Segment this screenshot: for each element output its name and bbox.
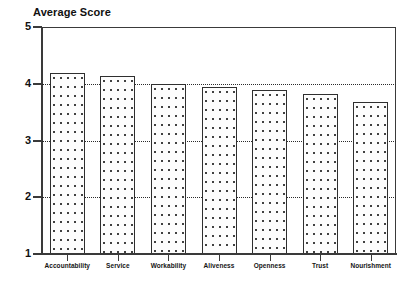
gridline-4 — [42, 84, 396, 85]
x-axis-tick-nourishment — [371, 254, 372, 261]
x-axis-tick-trust — [320, 254, 321, 261]
x-axis-tick-accountability — [67, 254, 68, 261]
x-axis-tick-openness — [270, 254, 271, 261]
y-axis-tick-3 — [33, 140, 42, 142]
x-axis-label-service: Service — [106, 262, 129, 269]
x-axis-label-workability: Workability — [151, 262, 186, 269]
y-axis-label-4: 4 — [11, 78, 31, 89]
y-axis-label-1: 1 — [11, 248, 31, 259]
bar-openness — [252, 90, 287, 254]
y-axis-label-2: 2 — [11, 191, 31, 202]
y-axis-tick-5 — [33, 26, 42, 28]
chart-title: Average Score — [33, 6, 111, 18]
bar-aliveness — [202, 87, 237, 254]
y-axis-label-3: 3 — [11, 135, 31, 146]
y-axis-label-5: 5 — [11, 21, 31, 32]
y-axis-tick-2 — [33, 196, 42, 198]
x-axis-label-nourishment: Nourishment — [350, 262, 391, 269]
bar-trust — [303, 94, 338, 254]
x-axis-tick-aliveness — [219, 254, 220, 261]
x-axis-label-accountability: Accountability — [45, 262, 90, 269]
bar-workability — [151, 84, 186, 254]
bar-nourishment — [353, 102, 388, 254]
x-axis-tick-service — [118, 254, 119, 261]
x-axis-label-aliveness: Aliveness — [204, 262, 235, 269]
x-axis-label-openness: Openness — [254, 262, 286, 269]
y-axis-tick-4 — [33, 83, 42, 85]
x-axis-line — [33, 253, 397, 255]
bar-accountability — [50, 73, 85, 254]
x-axis-label-trust: Trust — [312, 262, 328, 269]
x-axis-tick-workability — [168, 254, 169, 261]
bar-service — [100, 76, 135, 254]
average-score-bar-chart: Average Score 12345 AccountabilityServic… — [0, 0, 417, 289]
